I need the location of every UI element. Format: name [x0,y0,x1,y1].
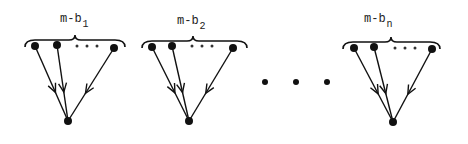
source-node [370,43,378,51]
sink-node [389,118,397,126]
ellipsis-dot [414,47,417,50]
group-ellipsis [262,79,330,85]
source-node [31,42,39,50]
ellipsis-dot [293,79,299,85]
edge [189,48,233,121]
edge [393,49,432,122]
group-label: m-b2 [177,14,206,32]
arrowhead-icon [206,83,214,93]
source-node [148,43,156,51]
ellipsis-dot [262,79,268,85]
sink-node [64,117,72,125]
fan-in-diagram: m-b1m-b2m-bn [0,0,468,144]
ellipsis-dot [404,47,407,50]
arrowhead-icon [85,84,93,94]
ellipsis-dot [211,45,214,48]
node-group-2: m-b2 [142,14,247,125]
ellipsis-dot [324,79,330,85]
source-node [53,41,61,49]
ellipsis-dot [191,45,194,48]
group-label-subscript: n [387,19,393,30]
group-label: m-b1 [60,12,89,30]
ellipsis-dot [96,45,99,48]
edge [374,47,393,122]
source-node [229,44,237,52]
group-label-subscript: 1 [83,19,89,30]
source-node [110,44,118,52]
curly-brace-icon [25,35,125,47]
node-group-1: m-b1 [25,12,125,125]
edge [68,48,114,121]
source-node [428,45,436,53]
group-label-subscript: 2 [200,21,206,32]
ellipsis-dot [86,45,89,48]
group-label: m-bn [364,12,393,30]
sink-node [185,117,193,125]
ellipsis-dot [394,47,397,50]
source-node [168,42,176,50]
node-group-3: m-bn [343,12,440,126]
edge [152,47,189,121]
ellipsis-dot [76,45,79,48]
ellipsis-dot [201,45,204,48]
source-node [350,44,358,52]
